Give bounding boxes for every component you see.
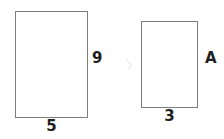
left-rectangle-height-label: 9 [92, 51, 102, 66]
left-rectangle-width-label: 5 [15, 119, 88, 134]
right-rectangle [141, 21, 198, 108]
right-rectangle-width-label: 3 [141, 109, 198, 124]
right-rectangle-height-label: A [205, 51, 217, 66]
geometry-figure-canvas: 9 5 A 3 [0, 0, 224, 139]
faint-gray-mark-icon [125, 59, 133, 70]
left-rectangle [15, 11, 88, 118]
